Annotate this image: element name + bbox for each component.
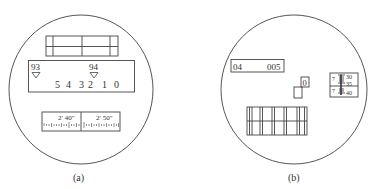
reading-right-value: 005 — [267, 62, 281, 72]
index-triangle-93 — [32, 73, 40, 79]
figure-a: 93 94 5 4 3 2 1 0 2′ 40″ 2′ 50″ — [9, 15, 153, 184]
index-triangle-94 — [90, 73, 98, 79]
scale-digit: 4 — [66, 79, 71, 90]
scale-label-93: 93 — [31, 62, 41, 72]
reading-window-b: 04 005 — [231, 60, 284, 73]
lower-scale-right-label: 2′ 50″ — [96, 114, 113, 122]
micrometer-tick-label: 40 — [346, 90, 352, 96]
caption-a: (a) — [73, 172, 84, 184]
caption-b: (b) — [288, 172, 300, 184]
bottom-grid-b — [247, 107, 307, 135]
small-window-b: 0 — [294, 77, 309, 98]
upper-scale-a: 93 94 5 4 3 2 1 0 — [29, 61, 135, 93]
scale-digit: 3 — [79, 79, 84, 90]
micrometer-top-index: 7 — [332, 76, 335, 82]
micrometer-tick-label: 35 — [346, 81, 352, 87]
micrometer-ticks — [338, 75, 345, 96]
lower-scale-a: 2′ 40″ 2′ 50″ — [42, 112, 120, 131]
micrometer-window-b: 7 7 30 35 40 — [330, 73, 358, 97]
scale-digit: 2 — [88, 79, 93, 90]
scale-digit: 1 — [102, 79, 107, 90]
scale-digit: 5 — [55, 79, 60, 90]
reading-left-value: 04 — [233, 62, 243, 72]
figure-canvas: 93 94 5 4 3 2 1 0 2′ 40″ 2′ 50″ — [0, 0, 375, 189]
lower-scale-left-label: 2′ 40″ — [58, 114, 75, 122]
scale-digit: 0 — [114, 79, 119, 90]
scale-label-94: 94 — [89, 62, 99, 72]
top-grid-a — [46, 36, 118, 56]
micrometer-bottom-index: 7 — [332, 88, 335, 94]
small-window-value: 0 — [303, 78, 307, 88]
offset-box — [294, 87, 302, 98]
micrometer-tick-label: 30 — [346, 74, 352, 80]
figure-b: 04 005 0 7 7 30 — [221, 15, 367, 184]
